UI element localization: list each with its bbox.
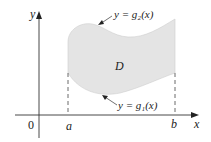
lower-curve-label: y = g₁(x) xyxy=(118,100,157,111)
upper-curve-label: y = g₂(x) xyxy=(114,9,153,20)
region-diagram: y x 0 a b D y = g₂(x) y = g₁(x) xyxy=(0,0,211,142)
origin-label: 0 xyxy=(28,119,34,131)
region-label: D xyxy=(115,60,124,72)
lower-label-leader xyxy=(105,97,117,105)
y-axis-arrow-icon xyxy=(36,11,42,19)
upper-leader-arrow-icon xyxy=(98,20,104,25)
region-d xyxy=(68,19,175,94)
bound-label-b: b xyxy=(171,118,177,130)
y-axis-label: y xyxy=(30,8,35,20)
x-axis-label: x xyxy=(194,118,199,130)
lower-leader-arrow-icon xyxy=(102,95,108,100)
bound-label-a: a xyxy=(66,120,72,132)
